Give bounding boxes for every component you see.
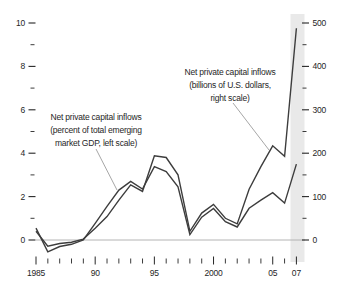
annotation-line: Net private capital inflows [185, 66, 276, 79]
annotation-line: market GDP, left scale) [50, 137, 142, 150]
callout-line-left-scale [96, 149, 117, 190]
annotation-line: (billions of U.S. dollars, [185, 79, 276, 92]
annotation-left-scale-series: Net private capital inflows (percent of … [50, 111, 142, 150]
x-axis-tick-label: 2000 [204, 268, 223, 278]
x-axis-tick-label: 95 [150, 268, 160, 278]
x-axis-tick-label: 90 [91, 268, 101, 278]
annotation-right-scale-series: Net private capital inflows (billions of… [185, 66, 276, 105]
right-axis-tick-label: 0 [313, 235, 318, 245]
left-axis-tick-label: 0 [20, 235, 25, 245]
left-axis-tick-label: 4 [20, 148, 25, 158]
annotation-line: (percent of total emerging [50, 124, 142, 137]
highlight-band-2007 [291, 14, 305, 262]
right-axis-tick-label: 100 [313, 192, 327, 202]
left-axis-tick-label: 8 [20, 61, 25, 71]
annotation-line: Net private capital inflows [50, 111, 142, 124]
left-axis-tick-label: 10 [16, 18, 26, 28]
right-axis-tick-label: 500 [313, 18, 327, 28]
left-axis-tick-label: 2 [20, 192, 25, 202]
x-axis-tick-label: 05 [268, 268, 278, 278]
right-axis-tick-label: 200 [313, 148, 327, 158]
callout-line-right-scale [233, 103, 269, 150]
right-axis-tick-label: 400 [313, 61, 327, 71]
right-axis-tick-label: 300 [313, 105, 327, 115]
annotation-line: right scale) [185, 92, 276, 105]
left-axis-tick-label: 6 [20, 105, 25, 115]
capital-inflows-chart: 024681001002003004005001985909520000507 … [0, 0, 342, 295]
series-line-percent-gdp [36, 164, 296, 252]
x-axis-tick-label: 1985 [27, 268, 46, 278]
x-axis-tick-label: 07 [292, 268, 302, 278]
